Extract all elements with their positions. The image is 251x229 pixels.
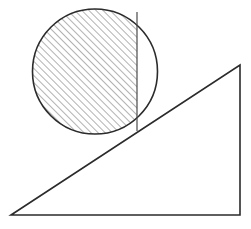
geometry-diagram	[0, 0, 251, 229]
figure-canvas: Circle resting on an inclined plane with…	[0, 0, 251, 229]
